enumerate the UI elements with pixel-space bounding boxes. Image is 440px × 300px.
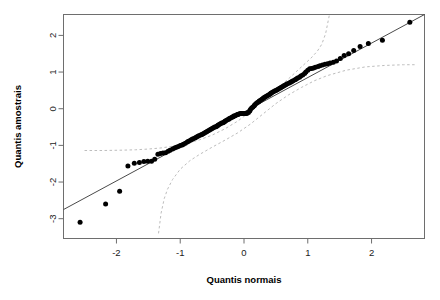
data-point — [366, 41, 371, 46]
qq-plot-figure: -2-1012 210-1-2-3 Quantis normais Quanti… — [0, 0, 440, 300]
y-tick-label: 0 — [47, 106, 58, 111]
y-axis-title: Quantis amostrais — [12, 85, 23, 168]
confidence-band-path — [159, 65, 417, 234]
data-point — [407, 20, 412, 25]
x-axis-tick-labels: -2-1012 — [112, 247, 374, 258]
x-tick-label: 0 — [241, 247, 246, 258]
y-tick-label: 2 — [47, 33, 58, 38]
plot-box-border — [64, 15, 425, 239]
y-axis-tick-labels: 210-1-2-3 — [47, 33, 58, 223]
plot-box — [64, 15, 425, 239]
y-tick-label: 1 — [47, 69, 58, 74]
data-point — [103, 202, 108, 207]
data-point — [380, 38, 385, 43]
x-axis-ticks — [116, 239, 371, 244]
x-axis-title: Quantis normais — [207, 274, 282, 285]
y-tick-label: -3 — [47, 214, 58, 222]
data-point — [152, 157, 157, 162]
data-points — [78, 20, 413, 225]
data-point — [342, 53, 347, 58]
y-axis-ticks — [59, 35, 64, 218]
x-tick-label: 1 — [305, 247, 310, 258]
y-tick-label: -1 — [47, 141, 58, 149]
data-point — [132, 161, 137, 166]
x-tick-label: -2 — [112, 247, 120, 258]
data-point — [346, 51, 351, 56]
x-tick-label: -1 — [176, 247, 184, 258]
data-point — [78, 220, 83, 225]
x-tick-label: 2 — [369, 247, 374, 258]
y-tick-label: -2 — [47, 178, 58, 186]
qq-plot-canvas: -2-1012 210-1-2-3 Quantis normais Quanti… — [0, 0, 440, 300]
data-point — [137, 160, 142, 165]
data-point — [117, 189, 122, 194]
confidence-band-curves — [85, 15, 417, 234]
data-point — [358, 44, 363, 49]
data-point — [125, 163, 130, 168]
data-point — [351, 48, 356, 53]
